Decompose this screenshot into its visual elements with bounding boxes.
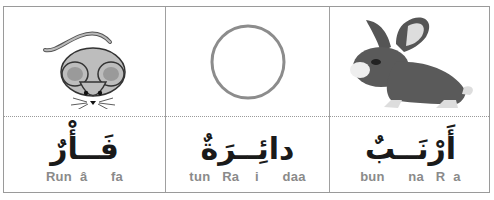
rabbit-icon [336, 12, 486, 112]
transliteration: bun na R a [360, 169, 461, 184]
card-rabbit-picture [330, 7, 491, 116]
card-circle-word: دائِــرَةٌ tun Ra i daa [166, 117, 329, 194]
arabic-word: دائِــرَةٌ [201, 131, 295, 167]
arabic-word: فَــأْرٌ [50, 131, 119, 167]
arabic-word: أَرْنَــبٌ [365, 131, 456, 167]
transliteration: tun Ra i daa [189, 169, 305, 184]
card-circle-picture [166, 7, 329, 116]
card-mouse-word: فَــأْرٌ Run â fa [4, 117, 165, 194]
mouse-icon [25, 14, 145, 109]
card-mouse-picture [4, 7, 165, 116]
transliteration: Run â fa [46, 169, 123, 184]
circle-icon [203, 17, 293, 107]
card-rabbit-word: أَرْنَــبٌ bun na R a [330, 117, 491, 194]
flashcard-grid: فَــأْرٌ Run â fa دائِــرَةٌ tun Ra i da… [3, 6, 490, 193]
